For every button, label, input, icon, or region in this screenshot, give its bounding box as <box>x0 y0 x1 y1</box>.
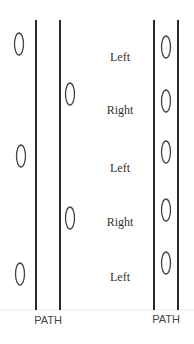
step-label: Left <box>110 270 130 285</box>
footprint-oval <box>162 36 171 58</box>
step-label: Left <box>110 161 130 176</box>
footprint-oval <box>162 90 171 112</box>
footprint-oval <box>162 199 171 221</box>
footprint-oval <box>66 83 75 105</box>
footprint-diagram <box>0 0 194 344</box>
step-label: Right <box>107 215 134 230</box>
left-path-label: PATH <box>34 314 62 326</box>
footprint-oval <box>17 145 26 167</box>
footprint-oval <box>162 252 171 274</box>
footprint-oval <box>162 141 171 163</box>
footprint-oval <box>66 207 75 229</box>
right-path-label: PATH <box>152 313 180 325</box>
footprint-oval <box>16 263 25 285</box>
step-label: Left <box>110 50 130 65</box>
footprint-oval <box>15 33 24 55</box>
step-label: Right <box>107 103 134 118</box>
